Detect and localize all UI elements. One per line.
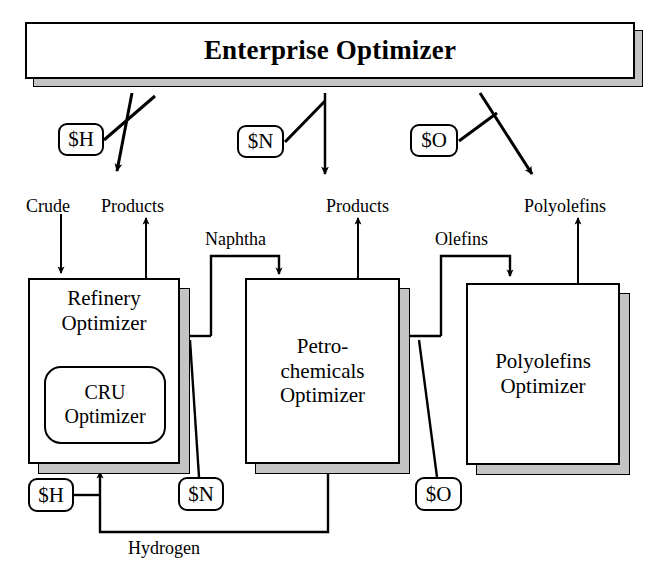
polyolefins-optimizer-box[interactable]: Polyolefins Optimizer [466,283,620,465]
price-badge-h-bottom-label: $H [38,483,64,508]
polyolefins-label-group: Polyolefins Optimizer [495,349,591,399]
price-badge-o-top[interactable]: $O [410,124,458,157]
petrochemicals-optimizer-label-line3: Optimizer [280,383,365,408]
petrochemicals-optimizer-label-line2: chemicals [280,359,365,384]
stream-label-olefins: Olefins [435,229,488,250]
petrochemicals-label-group: Petro- chemicals Optimizer [280,334,365,408]
price-badge-h-top[interactable]: $H [58,123,104,156]
polyolefins-optimizer-label-line1: Polyolefins [495,349,591,374]
cru-optimizer-label-line1: CRU [64,381,145,405]
refinery-optimizer-label-line1: Refinery [67,286,140,311]
stream-label-naphtha: Naphtha [205,229,266,250]
price-badge-n-top-label: $N [248,129,274,154]
price-badge-o-top-label: $O [421,128,447,153]
connector-o-bottom [419,340,437,477]
cru-label-group: CRU Optimizer [64,381,145,428]
cru-optimizer-label-line2: Optimizer [64,405,145,429]
stream-label-polyolefins: Polyolefins [524,196,606,217]
price-badge-n-bottom-label: $N [188,482,214,507]
price-badge-n-bottom[interactable]: $N [178,477,224,511]
connector-n-bottom [190,340,199,477]
price-badge-h-bottom[interactable]: $H [28,478,74,512]
enterprise-optimizer-box[interactable]: Enterprise Optimizer [25,22,635,79]
price-badge-h-top-label: $H [68,127,94,152]
price-badge-n-top[interactable]: $N [237,125,284,158]
connector-enterprise-o [459,93,532,174]
price-badge-o-bottom[interactable]: $O [415,477,462,511]
refinery-optimizer-label-line2: Optimizer [61,311,146,336]
stream-label-hydrogen: Hydrogen [128,538,200,559]
price-badge-o-bottom-label: $O [426,482,452,507]
stream-label-products-2: Products [326,196,389,217]
enterprise-optimizer-label: Enterprise Optimizer [204,35,456,66]
connector-enterprise-h [104,93,155,171]
polyolefins-optimizer-label-line2: Optimizer [495,374,591,399]
petrochemicals-optimizer-label-line1: Petro- [280,334,365,359]
diagram-canvas: Enterprise Optimizer Refinery Optimizer … [0,0,649,575]
stream-label-products-1: Products [101,196,164,217]
petrochemicals-optimizer-box[interactable]: Petro- chemicals Optimizer [245,278,400,464]
cru-optimizer-box[interactable]: CRU Optimizer [44,366,166,444]
connector-enterprise-n [285,101,325,142]
stream-label-crude: Crude [26,196,70,217]
